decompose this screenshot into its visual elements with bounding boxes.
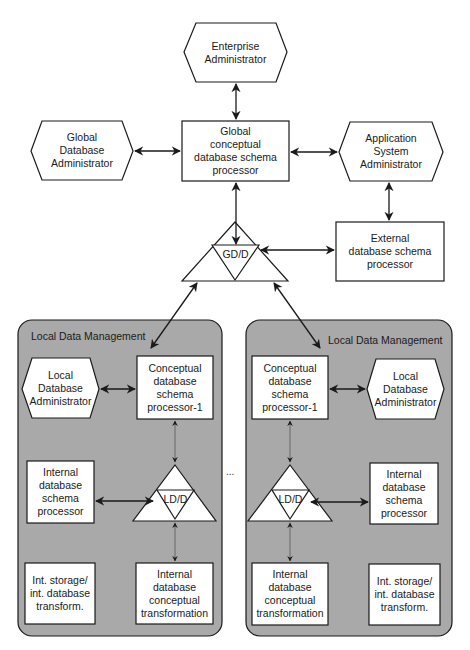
left-internal-conceptual-transformation-label: Internal database conceptual transformat… bbox=[136, 563, 213, 624]
left-conceptual-processor-label: Conceptual database schema processor-1 bbox=[137, 356, 213, 419]
right-local-db-admin-label: Local Database Administrator bbox=[367, 359, 444, 419]
enterprise-admin-label: Enterprise Administrator bbox=[184, 23, 287, 82]
right-int-storage-label: Int. storage/ int. database transform. bbox=[369, 564, 440, 625]
diagram-canvas bbox=[0, 0, 470, 650]
right-internal-conceptual-transformation-label: Internal database conceptual transformat… bbox=[252, 563, 328, 625]
right-panel-title: Local Data Management bbox=[328, 334, 442, 346]
global-db-admin-label: Global Database Administrator bbox=[31, 121, 133, 180]
ellipsis: ... bbox=[226, 466, 234, 477]
right-conceptual-processor-label: Conceptual database schema processor-1 bbox=[252, 356, 328, 419]
gdd-label: GD/D bbox=[212, 247, 259, 261]
right-ldd-label: LD/D bbox=[272, 492, 309, 506]
right-internal-schema-processor-label: Internal database schema processor bbox=[370, 463, 438, 524]
left-int-storage-label: Int. storage/ int. database transform. bbox=[25, 563, 95, 624]
left-local-db-admin-label: Local Database Administrator bbox=[22, 358, 99, 418]
left-panel-title: Local Data Management bbox=[31, 330, 145, 342]
global-conceptual-processor-label: Global conceptual database schema proces… bbox=[182, 121, 289, 181]
left-internal-schema-processor-label: Internal database schema processor bbox=[27, 461, 94, 523]
application-system-admin-label: Application System Administrator bbox=[339, 122, 443, 181]
left-ldd-label: LD/D bbox=[157, 492, 194, 506]
external-processor-label: External database schema processor bbox=[336, 222, 444, 281]
